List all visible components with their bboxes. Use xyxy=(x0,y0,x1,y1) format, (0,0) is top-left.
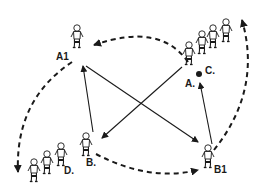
player xyxy=(220,19,232,42)
pass-b-to-a1 xyxy=(83,66,93,132)
run-routes xyxy=(18,20,248,174)
player-group-c xyxy=(183,19,232,65)
run-b-to-b1 xyxy=(96,154,198,174)
label-d: D. xyxy=(64,166,74,176)
player-group-d xyxy=(28,133,92,182)
run-c-to-a1 xyxy=(94,37,188,62)
pass-b1-to-a xyxy=(200,83,212,144)
label-c: C. xyxy=(205,66,215,76)
run-b1-to-c xyxy=(214,20,248,150)
label-b: B. xyxy=(86,158,96,168)
label-a1: A1 xyxy=(56,52,69,62)
player xyxy=(55,143,67,166)
player xyxy=(196,31,208,54)
player xyxy=(41,151,53,174)
pass-a-to-b xyxy=(102,67,182,138)
label-b1: B1 xyxy=(214,165,227,175)
player-b1 xyxy=(202,145,214,168)
player-a xyxy=(183,42,195,65)
player-b xyxy=(80,133,92,156)
pass-a1-to-b1 xyxy=(86,66,198,142)
player-a1 xyxy=(71,25,83,48)
drill-diagram xyxy=(0,0,264,188)
label-a: A. xyxy=(185,79,195,89)
player xyxy=(28,159,40,182)
ball-icon xyxy=(196,71,202,77)
player xyxy=(207,25,219,48)
